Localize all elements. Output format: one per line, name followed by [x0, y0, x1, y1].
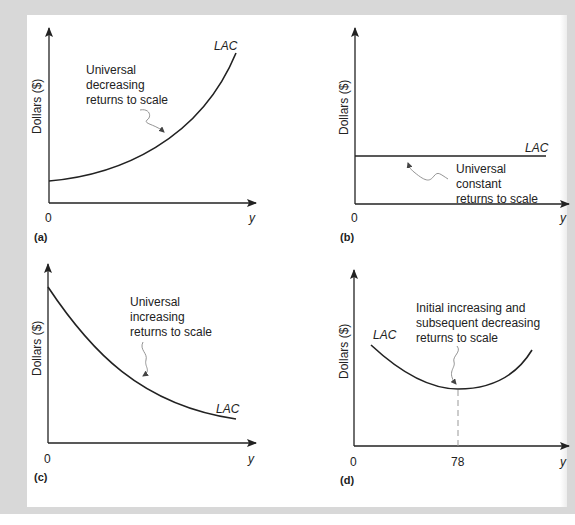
- annotation-line-2: decreasing: [86, 78, 145, 92]
- lac-curve: [49, 53, 236, 181]
- y-axis-label: Dollars ($): [30, 79, 44, 134]
- annotation-line-2: constant: [456, 177, 502, 191]
- x-tick-78: 78: [451, 455, 465, 469]
- origin-label: 0: [351, 211, 358, 225]
- annotation-line-3: returns to scale: [86, 93, 168, 107]
- panel-label: (b): [340, 231, 354, 243]
- annotation-arrow: [142, 342, 147, 376]
- curve-label: LAC: [214, 39, 238, 53]
- panel-label: (a): [34, 231, 48, 243]
- annotation-line-3: returns to scale: [456, 192, 538, 206]
- annotation-line-1: Universal: [130, 295, 180, 309]
- y-axis-label: Dollars ($): [337, 80, 351, 135]
- panel-c: LAC Universal increasing returns to scal…: [30, 264, 256, 483]
- annotation-line-1: Universal: [86, 63, 136, 77]
- lac-curve: [371, 345, 532, 389]
- panel-label: (c): [34, 471, 48, 483]
- annotation-arrow: [451, 346, 458, 384]
- annotation-line-2: increasing: [130, 310, 185, 324]
- panel-label: (d): [340, 474, 354, 486]
- x-axis-label: y: [248, 211, 256, 225]
- annotation-line-3: returns to scale: [416, 331, 498, 345]
- panel-a: LAC Universal decreasing returns to scal…: [30, 28, 256, 243]
- annotation-line-1: Universal: [456, 162, 506, 176]
- curve-label: LAC: [216, 402, 240, 416]
- origin-label: 0: [45, 211, 52, 225]
- annotation-line-3: returns to scale: [130, 325, 212, 339]
- x-axis-label: y: [559, 455, 567, 469]
- annotation-arrow: [140, 110, 164, 132]
- y-axis-label: Dollars ($): [30, 321, 44, 376]
- origin-label: 0: [350, 455, 357, 469]
- annotation-line-2: subsequent decreasing: [416, 316, 540, 330]
- curve-label: LAC: [373, 328, 397, 342]
- x-axis-label: y: [247, 452, 255, 466]
- annotation-line-1: Initial increasing and: [416, 301, 525, 315]
- origin-label: 0: [44, 452, 51, 466]
- curve-label: LAC: [525, 141, 549, 155]
- x-axis-label: y: [559, 211, 567, 225]
- annotation-arrow: [408, 163, 448, 180]
- panel-b: LAC Universal constant returns to scale …: [337, 28, 569, 243]
- y-axis-label: Dollars ($): [337, 324, 351, 379]
- panel-d: LAC Initial increasing and subsequent de…: [337, 270, 569, 486]
